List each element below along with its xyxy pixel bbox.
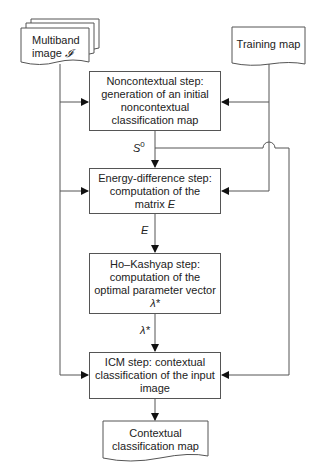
step-line: Noncontextual step:	[101, 75, 209, 88]
multiband-image-input: Multiband image 𝓘	[24, 34, 94, 60]
step-line: noncontextual	[101, 101, 209, 114]
matrix-word: matrix	[135, 198, 168, 210]
step-line: optimal parameter vector	[94, 284, 216, 297]
contextual-classification-map-output: Contextual classification map	[103, 427, 208, 453]
icm-step-box: ICM step: contextual classification of t…	[89, 352, 221, 399]
step-line: Ho–Kashyap step:	[94, 258, 216, 271]
e-edge-label: E	[141, 224, 148, 236]
multiband-label-line2: image 𝓘	[32, 47, 94, 60]
image-symbol: 𝓘	[65, 47, 72, 59]
step-line: generation of an initial	[101, 88, 209, 101]
noncontextual-step-box: Noncontextual step: generation of an ini…	[89, 71, 221, 131]
step-line: Energy-difference step:	[98, 172, 212, 185]
step-line: computation of the	[98, 185, 212, 198]
multiband-image-word: image	[32, 47, 62, 59]
ho-kashyap-step-box: Ho–Kashyap step: computation of the opti…	[89, 253, 221, 314]
output-line: Contextual	[103, 427, 208, 440]
step-line: classification map	[101, 114, 209, 127]
step-line: computation of the	[94, 271, 216, 284]
training-map-input: Training map	[232, 38, 305, 51]
step-line: image	[95, 382, 215, 395]
s0-edge-label: S0	[133, 140, 145, 154]
lambda-edge-label: λ*	[140, 324, 150, 336]
step-line: classification of the input	[95, 369, 215, 382]
lambda-symbol: λ*	[94, 297, 216, 310]
matrix-symbol: E	[168, 198, 175, 210]
step-line: ICM step: contextual	[95, 356, 215, 369]
s0-sup: 0	[140, 140, 144, 149]
training-map-label: Training map	[237, 38, 301, 50]
energy-difference-step-box: Energy-difference step: computation of t…	[89, 168, 221, 214]
multiband-label: Multiband	[32, 34, 94, 47]
step-line: matrix E	[98, 198, 212, 211]
output-line: classification map	[103, 440, 208, 453]
